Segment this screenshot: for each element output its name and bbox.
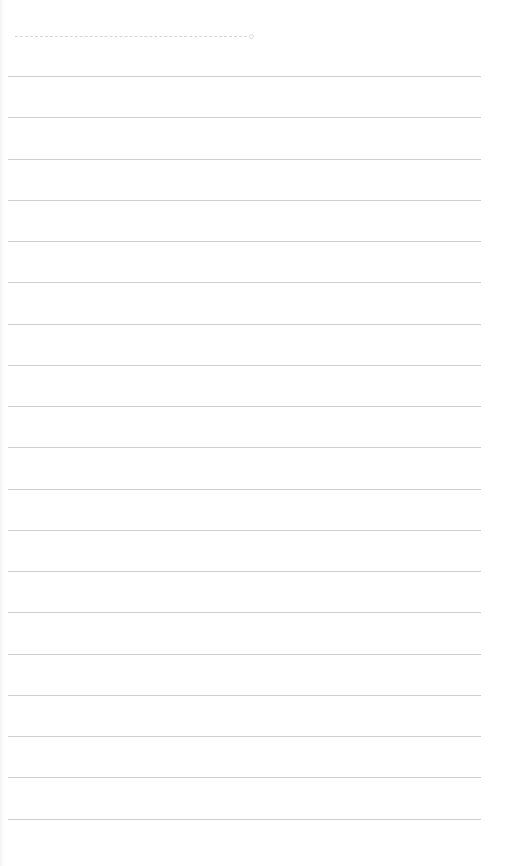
ruled-line	[8, 447, 481, 448]
ruled-line	[8, 324, 481, 325]
ruled-page	[0, 0, 526, 866]
ruled-line	[8, 406, 481, 407]
header-placeholder-dot	[249, 34, 254, 39]
ruled-line	[8, 612, 481, 613]
header-placeholder-line	[15, 36, 247, 37]
ruled-line	[8, 282, 481, 283]
ruled-line	[8, 117, 481, 118]
ruled-line	[8, 365, 481, 366]
ruled-line	[8, 76, 481, 77]
ruled-line	[8, 571, 481, 572]
ruled-line	[8, 530, 481, 531]
ruled-line	[8, 819, 481, 820]
ruled-line	[8, 777, 481, 778]
ruled-line	[8, 654, 481, 655]
ruled-line	[8, 200, 481, 201]
faint-header-bleedthrough	[0, 0, 526, 14]
ruled-line	[8, 241, 481, 242]
ruled-line	[8, 159, 481, 160]
page-left-edge-shadow	[0, 0, 4, 866]
ruled-line	[8, 736, 481, 737]
ruled-line	[8, 489, 481, 490]
ruled-line	[8, 695, 481, 696]
